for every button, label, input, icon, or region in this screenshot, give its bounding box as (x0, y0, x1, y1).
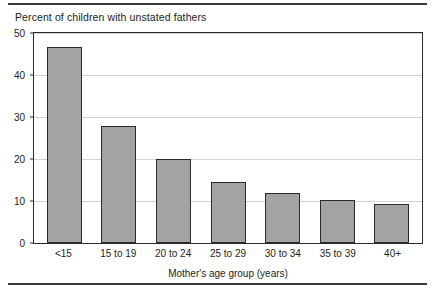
x-axis-tick-label: 35 to 39 (310, 248, 365, 259)
bar-slot (255, 33, 310, 243)
x-axis-tick-label: 15 to 19 (91, 248, 146, 259)
bottom-rule (8, 283, 427, 285)
bar[interactable] (101, 126, 136, 243)
bar-slot (37, 33, 92, 243)
x-axis-tick-label: 30 to 34 (255, 248, 310, 259)
y-axis-tick-label: 10 (14, 196, 25, 207)
bar-slot (310, 33, 365, 243)
y-axis-tick-label: 50 (14, 28, 25, 39)
y-axis-tick-label: 30 (14, 112, 25, 123)
bar[interactable] (156, 159, 191, 243)
x-axis-tick-labels: <1515 to 1920 to 2425 to 2930 to 3435 to… (33, 248, 423, 259)
bar-slot (364, 33, 419, 243)
bar-slot (146, 33, 201, 243)
bar[interactable] (320, 200, 355, 243)
x-axis-title: Mother's age group (years) (33, 268, 423, 279)
y-axis-tick-label: 0 (19, 238, 25, 249)
plot-area: 01020304050 (33, 32, 423, 244)
chart-figure: Percent of children with unstated father… (0, 0, 435, 293)
x-axis-tick-label: 40+ (365, 248, 420, 259)
bar[interactable] (374, 204, 409, 243)
gridline (34, 243, 422, 244)
chart-title: Percent of children with unstated father… (15, 11, 206, 23)
y-axis-tick-label: 20 (14, 154, 25, 165)
bar-series (34, 33, 422, 243)
bar-slot (92, 33, 147, 243)
bar-slot (201, 33, 256, 243)
x-axis-tick-label: 20 to 24 (146, 248, 201, 259)
x-axis-tick-label: 25 to 29 (201, 248, 256, 259)
y-axis-tick-label: 40 (14, 70, 25, 81)
bar[interactable] (47, 47, 82, 243)
x-axis-tick-label: <15 (36, 248, 91, 259)
bar[interactable] (265, 193, 300, 243)
top-rule (8, 3, 427, 5)
bar[interactable] (211, 182, 246, 243)
